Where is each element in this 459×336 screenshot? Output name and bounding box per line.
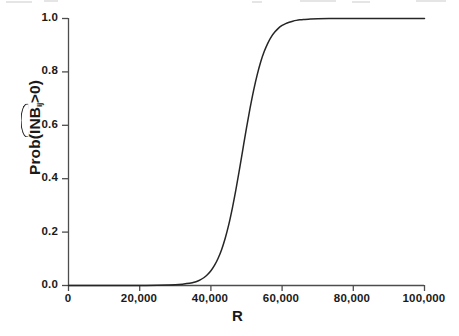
data-series-line bbox=[69, 18, 425, 285]
y-tick-marks bbox=[62, 19, 68, 286]
plot-area bbox=[0, 0, 459, 336]
chart-figure: Prob(INBij>0) 1.0 0.8 0.6 0.4 0.2 0.0 0 … bbox=[0, 0, 459, 336]
